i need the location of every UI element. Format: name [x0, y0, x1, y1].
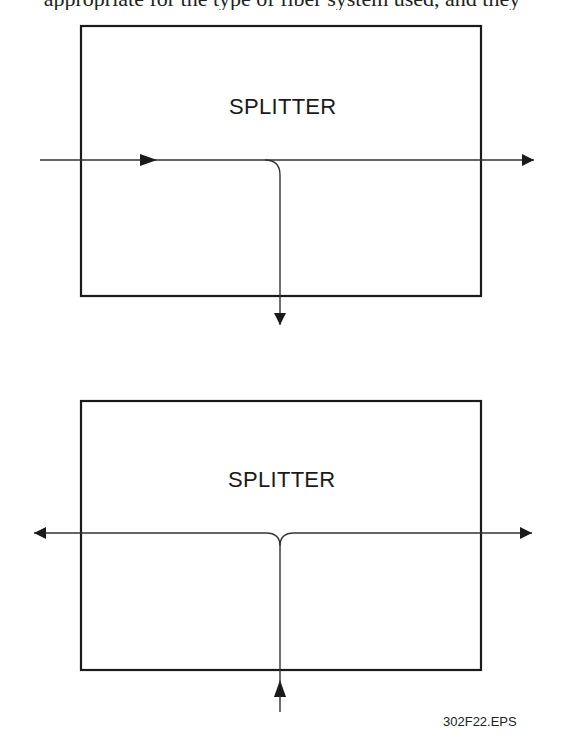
arrowhead-right-icon	[140, 154, 157, 166]
file-name-label: 302F22.EPS	[443, 714, 517, 729]
input-arrow-left	[40, 154, 265, 166]
output-arrow-down	[265, 160, 280, 325]
output-arrow-left	[34, 533, 280, 546]
arrowhead-up-icon	[274, 680, 286, 697]
splitter-label-top: SPLITTER	[229, 94, 337, 120]
splitter-label-bottom: SPLITTER	[228, 467, 336, 493]
figure-canvas: appropriate for the type of fiber system…	[0, 0, 564, 747]
output-arrow-right-bottom	[280, 533, 532, 546]
splitter-box-bottom	[81, 401, 481, 670]
input-arrow-up	[274, 546, 286, 712]
